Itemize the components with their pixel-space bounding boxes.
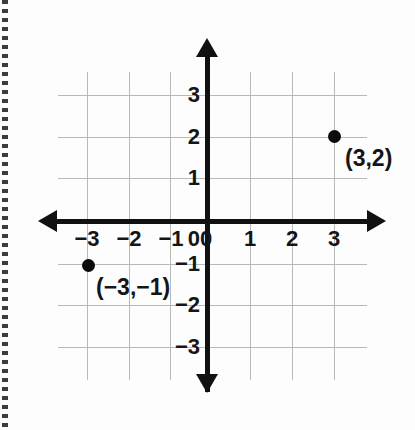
horizontal-gridline — [58, 137, 367, 138]
horizontal-gridline — [58, 178, 367, 179]
point-3-2-label: (3,2) — [345, 147, 392, 170]
x-axis-tick-label: 2 — [272, 228, 312, 250]
y-axis-tick-label: 3 — [160, 84, 200, 106]
x-axis-tick-label: −3 — [67, 228, 107, 250]
y-axis-up-arrow-icon — [196, 38, 218, 57]
point-neg3-neg1-dot — [82, 259, 95, 272]
y-axis-tick-label: −1 — [160, 253, 200, 275]
horizontal-gridline — [58, 264, 367, 265]
horizontal-gridline — [58, 305, 367, 306]
x-axis-line — [52, 219, 374, 224]
x-axis-right-arrow-icon — [367, 210, 386, 232]
y-axis-tick-label: −3 — [160, 336, 200, 358]
x-axis-left-arrow-icon — [38, 210, 57, 232]
y-axis-tick-label: 1 — [160, 167, 200, 189]
cartesian-plot-area: −3−2−10123 3210−1−2−3 (3,2)(−3,−1) — [0, 0, 415, 430]
x-axis-tick-label: 3 — [314, 228, 354, 250]
y-axis-tick-label: 0 — [160, 228, 200, 250]
x-axis-tick-label: −2 — [109, 228, 149, 250]
point-neg3-neg1-label: (−3,−1) — [96, 276, 170, 299]
coordinate-plane-figure: −3−2−10123 3210−1−2−3 (3,2)(−3,−1) — [0, 0, 415, 430]
horizontal-gridline — [58, 347, 367, 348]
y-axis-down-arrow-icon — [196, 374, 218, 393]
horizontal-gridline — [58, 95, 367, 96]
y-axis-tick-label: 2 — [160, 126, 200, 148]
y-axis-line — [205, 50, 210, 392]
x-axis-tick-label: 1 — [230, 228, 270, 250]
point-3-2-dot — [328, 130, 341, 143]
